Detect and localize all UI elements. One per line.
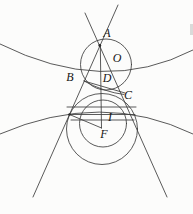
label-O: O: [113, 51, 122, 65]
label-D: D: [102, 71, 112, 85]
scan-artifact: [190, 24, 193, 35]
dot-vertex-A: [98, 44, 101, 47]
dot-tangency-left: [68, 113, 70, 115]
segment-radius-TF: [70, 115, 102, 129]
diagram-strokes: [0, 5, 193, 197]
curve-lower-conic-branch: [0, 112, 193, 134]
geometry-figure-page: AOBDCIF: [0, 0, 193, 214]
line-right-tangent: [85, 13, 167, 197]
curve-upper-conic-branch: [0, 44, 193, 72]
label-B: B: [66, 70, 74, 84]
label-F: F: [99, 127, 108, 141]
label-C: C: [124, 88, 133, 102]
label-A: A: [102, 26, 111, 40]
diagram-canvas: AOBDCIF: [0, 0, 193, 214]
